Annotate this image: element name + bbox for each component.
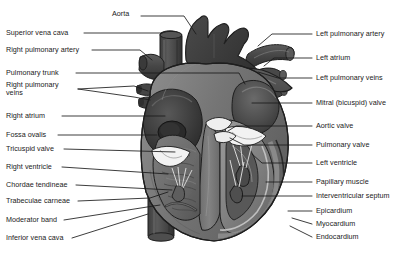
label-pulmonary-trunk: Pulmonary trunk — [6, 69, 59, 77]
label-inferior-vena-cava: Inferior vena cava — [6, 234, 64, 242]
label-endocardium: Endocardium — [316, 233, 359, 241]
leader-inferior-vena-cava — [72, 214, 148, 238]
label-right-ventricle: Right ventricle — [6, 163, 52, 171]
label-trabeculae-carneae: Trabeculae carneae — [6, 197, 70, 205]
label-moderator-band: Moderator band — [6, 216, 57, 224]
label-fossa-ovalis: Fossa ovalis — [6, 131, 46, 139]
label-aorta: Aorta — [112, 10, 129, 18]
leader-moderator-band — [64, 205, 160, 220]
leader-endocardium — [290, 226, 312, 237]
label-interventricular-septum: Interventricular septum — [316, 192, 390, 200]
label-left-pulmonary-artery: Left pulmonary artery — [316, 30, 384, 38]
label-left-ventricle: Left ventricle — [316, 159, 357, 167]
label-right-pulmonary-artery: Right pulmonary artery — [6, 46, 79, 54]
heart-anatomy-diagram: Aorta Superior vena cava Right pulmonary… — [0, 0, 416, 259]
label-left-atrium: Left atrium — [316, 54, 350, 62]
label-left-pulmonary-veins: Left pulmonary veins — [316, 74, 383, 82]
label-right-atrium: Right atrium — [6, 112, 45, 120]
label-pulmonary-valve: Pulmonary valve — [316, 141, 369, 149]
label-epicardium: Epicardium — [316, 207, 352, 215]
label-aortic-valve: Aortic valve — [316, 122, 353, 130]
label-myocardium: Myocardium — [316, 220, 355, 228]
left-pulmonary-artery-vessel — [246, 45, 294, 68]
label-chordae-tendineae: Chordae tendineae — [6, 181, 67, 189]
label-superior-vena-cava: Superior vena cava — [6, 29, 68, 37]
leader-left-pulmonary-artery — [258, 34, 312, 46]
label-papillary-muscle: Papillary muscle — [316, 178, 369, 186]
label-mitral-bicuspid-valve: Mitral (bicuspid) valve — [316, 99, 386, 107]
label-right-pulmonary-veins: Right pulmonary veins — [6, 81, 59, 98]
label-tricuspid-valve: Tricuspid valve — [6, 145, 54, 153]
heart-body — [141, 63, 288, 241]
leader-myocardium — [292, 218, 312, 224]
